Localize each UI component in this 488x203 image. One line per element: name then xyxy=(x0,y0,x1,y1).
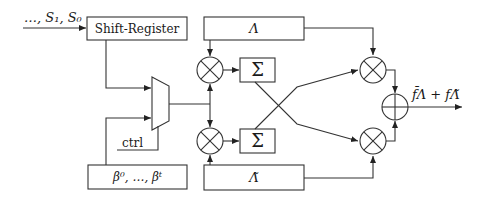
bottom-left-multiplier xyxy=(197,128,223,154)
shift-to-mux-line xyxy=(106,40,151,88)
right-bottom-mult-to-adder xyxy=(386,121,395,141)
input-label: …, S₁, S₀ xyxy=(24,11,82,24)
top-left-multiplier xyxy=(197,57,223,83)
lambda-label: Λ xyxy=(204,17,304,40)
beta-label: β⁰, …, βᵗ xyxy=(88,165,187,189)
sum-top-label: Σ xyxy=(240,58,275,82)
adder xyxy=(382,94,408,120)
multiplexer xyxy=(152,77,169,130)
shift-register-label: Shift-Register xyxy=(87,17,187,40)
top-right-multiplier xyxy=(360,57,386,83)
right-top-mult-to-adder xyxy=(386,70,395,93)
output-label: f̄Λ + fΛ̃ xyxy=(412,88,460,101)
ctrl-label: ctrl xyxy=(122,137,143,149)
lambda-tilde-to-right-bottom-mult xyxy=(304,156,373,178)
block-diagram: …, S₁, S₀ Shift-Register Λ β⁰, …, βᵗ Λ̃ … xyxy=(0,0,488,203)
lambda-tilde-label: Λ̃ xyxy=(204,165,304,190)
bottom-right-multiplier xyxy=(360,128,386,154)
lambda-to-right-top-mult xyxy=(304,28,373,55)
sum-bottom-label: Σ xyxy=(240,129,275,153)
